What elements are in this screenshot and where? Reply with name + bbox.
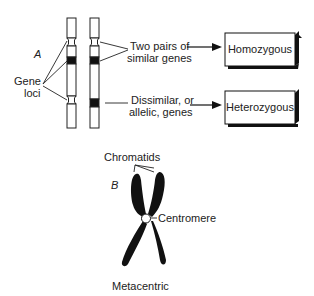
similar-label-line1: Two pairs of bbox=[130, 40, 190, 52]
dissimilar-label-line1: Dissimilar, or bbox=[131, 94, 194, 106]
chromatids-label: Chromatids bbox=[104, 151, 161, 163]
homozygous-box: Homozygous bbox=[225, 31, 302, 69]
homozygous-text: Homozygous bbox=[228, 43, 293, 55]
heterozygous-box: Heterozygous bbox=[225, 89, 299, 127]
allelic-label-line2: allelic, genes bbox=[129, 106, 193, 118]
genetics-diagram: A Gene loci Two pairs of similar genes D… bbox=[0, 0, 314, 296]
similar-genes-pointers bbox=[100, 42, 128, 61]
chromatids-pointers bbox=[134, 165, 154, 172]
arrow-to-homozygous bbox=[187, 43, 222, 51]
similar-label-line2: similar genes bbox=[127, 52, 192, 64]
gene-loci-pointers bbox=[43, 41, 67, 100]
chromosome-2 bbox=[90, 18, 99, 128]
arrow-to-heterozygous bbox=[190, 101, 222, 109]
centromere-label: Centromere bbox=[158, 212, 216, 224]
chromosome-1 bbox=[67, 18, 76, 128]
metacentric-label: Metacentric bbox=[112, 280, 169, 292]
gene-label-line2: loci bbox=[24, 87, 41, 99]
gene-label-line1: Gene bbox=[14, 75, 41, 87]
heterozygous-text: Heterozygous bbox=[226, 101, 294, 113]
centromere bbox=[142, 214, 151, 223]
panel-b-label: B bbox=[111, 179, 118, 191]
panel-a-label: A bbox=[33, 48, 41, 60]
